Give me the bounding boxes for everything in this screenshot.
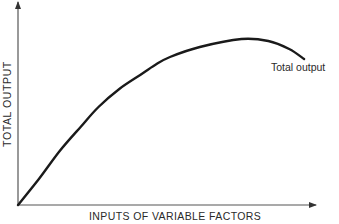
y-axis-label: TOTAL OUTPUT: [1, 61, 13, 147]
total-output-curve: [18, 39, 304, 205]
series-label-total-output: Total output: [271, 61, 325, 73]
chart-canvas: [0, 0, 339, 224]
x-axis-label: INPUTS OF VARIABLE FACTORS: [89, 210, 261, 222]
